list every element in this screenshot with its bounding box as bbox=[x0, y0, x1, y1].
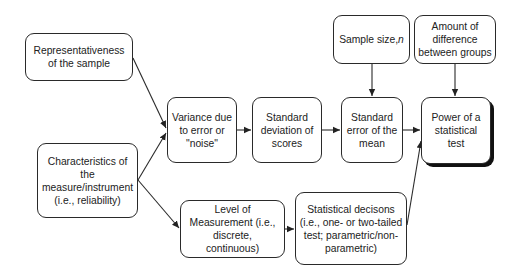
sample-size-variable: n bbox=[398, 33, 404, 46]
node-std-deviation: Standard deviation of scores bbox=[252, 97, 322, 163]
node-power: Power of a statistical test bbox=[421, 97, 491, 164]
node-representativeness: Representativeness of the sample bbox=[25, 33, 133, 81]
edge-representativeness-variance bbox=[133, 58, 166, 128]
edge-characteristics-variance bbox=[138, 133, 166, 180]
node-sample-size: Sample size, n bbox=[333, 15, 410, 64]
node-variance: Variance due to error or "noise" bbox=[167, 97, 237, 163]
sample-size-label: Sample size, bbox=[339, 33, 398, 46]
node-characteristics: Characteristics of the measure/instrumen… bbox=[37, 143, 138, 218]
node-amount-difference: Amount of difference between groups bbox=[414, 15, 496, 64]
node-statistical-decisions: Statistical decisons (i.e., one- or two-… bbox=[295, 192, 407, 265]
node-std-error: Standard error of the mean bbox=[341, 97, 403, 163]
node-level-measurement: Level of Measurement (i.e., discrete, co… bbox=[180, 200, 285, 258]
edge-decisions-power bbox=[407, 141, 421, 225]
edge-characteristics-level bbox=[138, 180, 179, 228]
